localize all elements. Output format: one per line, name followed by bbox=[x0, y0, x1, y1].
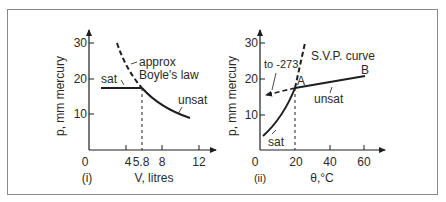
to-273-leader bbox=[272, 73, 276, 90]
to-minus-273-label: to -273 bbox=[264, 58, 298, 70]
x-tick-label: 40 bbox=[323, 155, 337, 169]
x-tick-label: 12 bbox=[192, 155, 206, 169]
unsat-label: unsat bbox=[314, 92, 344, 106]
unsat-leader bbox=[178, 107, 182, 114]
y-tick-label: 30 bbox=[245, 36, 259, 50]
x-tick-label: 5.8 bbox=[133, 155, 150, 169]
x-tick-label: 4 bbox=[125, 155, 132, 169]
boyle-label-line1: approx bbox=[139, 55, 176, 69]
y-tick-label: 30 bbox=[74, 36, 88, 50]
x-tick-label: 60 bbox=[357, 155, 371, 169]
panel-i: 30 20 10 0 4 5.8 8 12 p, mm mercury V, l… bbox=[53, 30, 216, 185]
sat-leader bbox=[121, 80, 124, 85]
x-axis-label: V, litres bbox=[135, 171, 174, 185]
y-tick-label: 20 bbox=[74, 72, 88, 86]
y-tick-label: 10 bbox=[245, 108, 259, 122]
panel-caption: (i) bbox=[82, 171, 93, 185]
sat-label: sat bbox=[268, 135, 285, 149]
y-tick-label: 20 bbox=[245, 72, 259, 86]
x-tick-label: 8 bbox=[159, 155, 166, 169]
point-a-label: A bbox=[297, 74, 305, 88]
y-axis-label: p, mm mercury bbox=[53, 56, 67, 136]
x-axis-label: θ,°C bbox=[310, 171, 334, 185]
point-b-label: B bbox=[361, 63, 369, 77]
figure-svg: 30 20 10 0 4 5.8 8 12 p, mm mercury V, l… bbox=[0, 0, 446, 202]
sat-label: sat bbox=[101, 72, 118, 86]
y-tick-label: 10 bbox=[74, 107, 88, 121]
svp-label: S.V.P. curve bbox=[311, 49, 375, 63]
panel-caption: (ii) bbox=[254, 172, 266, 184]
boyle-leader bbox=[131, 62, 137, 64]
x-tick-label: 20 bbox=[289, 155, 303, 169]
sat-leader bbox=[272, 130, 276, 134]
y-axis-label: p, mm mercury bbox=[225, 56, 239, 136]
x-tick-label: 0 bbox=[252, 155, 259, 169]
unsat-line-ab bbox=[295, 76, 365, 88]
unsat-label: unsat bbox=[178, 93, 208, 107]
boyle-label-line2: Boyle's law bbox=[139, 68, 199, 82]
panel-ii: 30 20 10 0 20 40 60 p, mm mercury θ,°C (… bbox=[225, 30, 385, 185]
x-tick-label: 0 bbox=[82, 155, 89, 169]
extrapolation-dashed-arrow bbox=[266, 88, 295, 95]
